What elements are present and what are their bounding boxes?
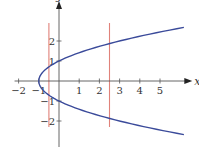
x-tick-label: 4	[137, 85, 143, 96]
x-axis-arrow-icon	[184, 78, 192, 84]
y-tick-label: 2	[49, 36, 55, 47]
x-tick-label: 3	[116, 85, 122, 96]
chart: x y −2−112345−2−112	[0, 0, 199, 149]
x-tick-label: 2	[96, 85, 102, 96]
y-axis-label: y	[55, 0, 63, 3]
vertical-lines-layer	[49, 23, 110, 127]
y-tick-label: −2	[40, 116, 55, 127]
x-tick-label: 1	[76, 85, 82, 96]
x-axis-label: x	[194, 75, 199, 88]
x-tick-label: −2	[11, 85, 26, 96]
x-tick-label: 5	[157, 85, 163, 96]
